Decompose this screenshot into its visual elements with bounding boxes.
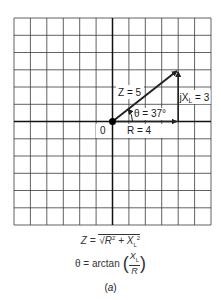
origin-point xyxy=(109,118,116,125)
theta-formula: θ = arctan ( XL R ) xyxy=(0,251,221,276)
theta-label: θ = 37° xyxy=(134,108,166,119)
r-label: R = 4 xyxy=(127,125,152,136)
figure-caption: (a) xyxy=(0,282,221,293)
z-label: Z = 5 xyxy=(118,87,142,98)
xl-label: jXL = 3 xyxy=(179,92,210,104)
origin-label: 0 xyxy=(100,125,106,136)
impedance-formula: Z = √R2 + XL2 xyxy=(0,235,221,248)
